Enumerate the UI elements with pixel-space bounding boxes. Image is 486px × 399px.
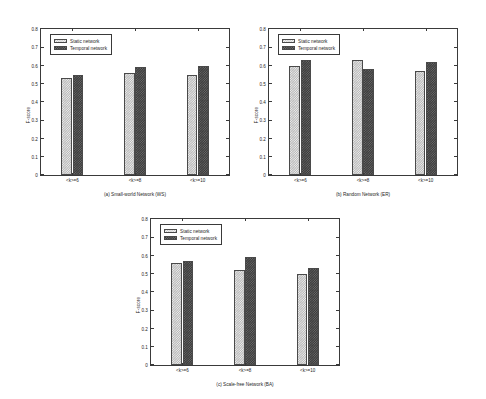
legend-label-temporal-a: Temporal network — [70, 46, 107, 51]
bar-c-2-temporal — [308, 268, 319, 365]
y-tick-label-b: 0.3 — [259, 118, 265, 123]
x-tick-label-b-0: <k>=6 — [294, 178, 307, 183]
y-tick-right-a — [226, 83, 229, 84]
x-tick-label-c-1: <k>=8 — [239, 368, 252, 373]
x-tick-label-a-0: <k>=6 — [66, 178, 79, 183]
legend-entry-static-c: Static network — [164, 228, 217, 235]
y-tick-right-b — [454, 65, 457, 66]
x-tick-top-c — [245, 219, 246, 221]
bar-c-2-static — [297, 274, 308, 365]
plot-area-b: Static network Temporal network 00.10.20… — [268, 28, 458, 176]
y-tick-b — [269, 101, 272, 102]
y-tick-label-c: 0.3 — [141, 308, 147, 313]
subplot-panel-c: F-score Static network Temporal network … — [132, 212, 344, 397]
bar-a-2-static — [187, 75, 198, 175]
hatched-dark-square-icon — [54, 46, 67, 51]
y-tick-label-a: 0.2 — [31, 136, 37, 141]
y-tick-right-a — [226, 174, 229, 175]
y-tick-label-a: 0.6 — [31, 63, 37, 68]
y-tick-label-a: 0.4 — [31, 100, 37, 105]
y-tick-b — [269, 156, 272, 157]
y-tick-right-b — [454, 47, 457, 48]
y-tick-c — [151, 273, 154, 274]
hatched-dark-square-icon — [282, 46, 295, 51]
y-tick-label-c: 0.4 — [141, 290, 147, 295]
legend-entry-static-a: Static network — [54, 38, 107, 45]
hatched-light-square-icon — [282, 39, 295, 44]
y-tick-right-b — [454, 28, 457, 29]
y-tick-label-b: 0 — [263, 173, 266, 178]
y-tick-right-b — [454, 83, 457, 84]
legend-label-static-a: Static network — [70, 39, 99, 44]
x-tick-label-c-2: <k>=10 — [300, 368, 315, 373]
bar-a-2-temporal — [198, 66, 209, 176]
y-tick-label-c: 0.1 — [141, 344, 147, 349]
y-tick-a — [41, 83, 44, 84]
y-tick-label-c: 0.2 — [141, 326, 147, 331]
y-tick-c — [151, 310, 154, 311]
bar-c-1-static — [234, 270, 245, 365]
x-tick-top-a — [198, 29, 199, 31]
y-tick-label-b: 0.2 — [259, 136, 265, 141]
bar-b-2-static — [415, 71, 426, 175]
bar-b-0-static — [289, 66, 300, 176]
legend-label-static-b: Static network — [298, 39, 327, 44]
y-tick-c — [151, 328, 154, 329]
y-tick-right-a — [226, 156, 229, 157]
x-tick-top-a — [135, 29, 136, 31]
y-tick-b — [269, 83, 272, 84]
y-tick-right-b — [454, 101, 457, 102]
y-tick-b — [269, 120, 272, 121]
bar-a-0-static — [61, 78, 72, 175]
subplot-panel-a: F-score Static network Temporal network … — [22, 22, 234, 207]
y-tick-label-c: 0 — [145, 363, 148, 368]
y-tick-c — [151, 346, 154, 347]
y-axis-label-b: F-score — [254, 106, 259, 122]
plot-area-c: Static network Temporal network 00.10.20… — [150, 218, 340, 366]
y-tick-c — [151, 255, 154, 256]
figure-canvas: F-score Static network Temporal network … — [0, 0, 486, 399]
y-tick-label-a: 0.7 — [31, 45, 37, 50]
y-tick-right-c — [336, 255, 339, 256]
y-tick-right-c — [336, 346, 339, 347]
x-tick-label-c-0: <k>=6 — [176, 368, 189, 373]
y-tick-right-c — [336, 364, 339, 365]
x-tick-bottom-a — [198, 173, 199, 175]
hatched-light-square-icon — [54, 39, 67, 44]
y-tick-a — [41, 65, 44, 66]
plot-area-a: Static network Temporal network 00.10.20… — [40, 28, 230, 176]
y-tick-label-c: 0.6 — [141, 253, 147, 258]
y-axis-label-c: F-score — [136, 296, 141, 312]
x-tick-bottom-b — [363, 173, 364, 175]
y-tick-a — [41, 101, 44, 102]
y-tick-a — [41, 174, 44, 175]
x-tick-label-b-1: <k>=8 — [357, 178, 370, 183]
legend-entry-temporal-b: Temporal network — [282, 45, 335, 52]
x-tick-bottom-c — [308, 363, 309, 365]
y-tick-b — [269, 28, 272, 29]
x-tick-bottom-c — [245, 363, 246, 365]
y-tick-right-a — [226, 101, 229, 102]
bar-b-0-temporal — [301, 60, 312, 175]
x-tick-top-b — [363, 29, 364, 31]
bar-a-0-temporal — [73, 75, 84, 175]
x-tick-bottom-b — [300, 173, 301, 175]
y-tick-right-b — [454, 174, 457, 175]
y-tick-label-c: 0.7 — [141, 235, 147, 240]
y-tick-a — [41, 28, 44, 29]
y-tick-a — [41, 47, 44, 48]
y-tick-label-a: 0.1 — [31, 154, 37, 159]
panel-caption-c: (c) Scale-free Network (BA) — [150, 382, 340, 387]
panel-caption-b: (b) Random Network (ER) — [268, 192, 458, 197]
y-tick-label-a: 0.8 — [31, 27, 37, 32]
y-tick-label-c: 0.8 — [141, 217, 147, 222]
y-tick-b — [269, 138, 272, 139]
legend-label-temporal-b: Temporal network — [298, 46, 335, 51]
y-tick-right-c — [336, 218, 339, 219]
x-tick-top-b — [300, 29, 301, 31]
y-tick-right-b — [454, 120, 457, 121]
bar-c-0-temporal — [183, 261, 194, 365]
y-tick-label-a: 0 — [35, 173, 38, 178]
legend-b: Static network Temporal network — [278, 34, 340, 55]
x-tick-label-a-1: <k>=8 — [129, 178, 142, 183]
